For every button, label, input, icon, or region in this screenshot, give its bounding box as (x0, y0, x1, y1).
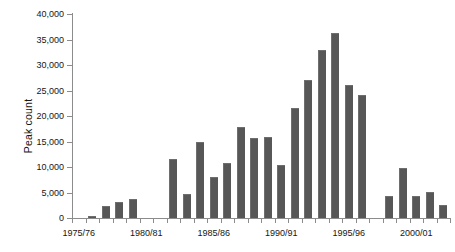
x-axis-tick (315, 219, 316, 223)
bar (169, 159, 177, 218)
bar (88, 216, 96, 218)
bar (331, 33, 339, 218)
bar (277, 165, 285, 218)
y-axis-label: 35,000 (36, 35, 64, 45)
y-axis-label: 15,000 (36, 137, 64, 147)
x-axis-tick (113, 219, 114, 223)
x-axis-tick (329, 219, 330, 223)
y-axis-label: 20,000 (36, 111, 64, 121)
bar (237, 127, 245, 218)
x-axis-tick (383, 219, 384, 223)
x-axis-tick (450, 219, 451, 223)
plot-area: 05,00010,00015,00020,00025,00030,00035,0… (72, 14, 450, 218)
x-axis-tick (221, 219, 222, 223)
x-axis-label: 1985/86 (197, 228, 230, 238)
y-axis-title: Peak count (18, 0, 38, 252)
y-axis-label: 40,000 (36, 9, 64, 19)
bar (412, 196, 420, 218)
y-axis-label: 5,000 (41, 188, 64, 198)
bar (385, 196, 393, 218)
x-axis-tick (72, 219, 73, 223)
bar (345, 85, 353, 218)
bar-chart: Peak count 05,00010,00015,00020,00025,00… (0, 0, 455, 252)
bar (291, 108, 299, 218)
x-axis-tick (437, 219, 438, 223)
x-axis-tick (342, 219, 343, 223)
x-axis-tick (396, 219, 397, 223)
y-axis-label: 25,000 (36, 86, 64, 96)
bar (358, 95, 366, 218)
x-axis-label: 1980/81 (130, 228, 163, 238)
x-axis-label: 1995/96 (332, 228, 365, 238)
bar (102, 206, 110, 218)
x-axis-tick (167, 219, 168, 223)
x-axis-tick (207, 219, 208, 223)
bar (223, 163, 231, 218)
bar (439, 205, 447, 218)
bar (318, 50, 326, 218)
x-axis-tick (356, 219, 357, 223)
x-axis-tick (248, 219, 249, 223)
x-axis-tick (275, 219, 276, 223)
y-axis-label: 30,000 (36, 60, 64, 70)
x-axis-tick (261, 219, 262, 223)
bar (196, 142, 204, 218)
x-axis-label: 2000/01 (400, 228, 433, 238)
y-axis-label: 0 (59, 213, 64, 223)
bars-layer (72, 14, 450, 218)
x-axis-tick (234, 219, 235, 223)
x-axis-tick (194, 219, 195, 223)
x-axis-tick (410, 219, 411, 223)
y-axis-label: 10,000 (36, 162, 64, 172)
bar (183, 194, 191, 218)
x-axis-tick (153, 219, 154, 223)
x-axis-label: 1975/76 (62, 228, 95, 238)
bar (115, 202, 123, 218)
x-axis-tick (302, 219, 303, 223)
x-axis-tick (423, 219, 424, 223)
bar (426, 192, 434, 218)
x-axis-tick (140, 219, 141, 223)
x-axis-tick (369, 219, 370, 223)
x-axis-tick (126, 219, 127, 223)
x-axis-tick (99, 219, 100, 223)
bar (210, 177, 218, 218)
x-axis-tick (180, 219, 181, 223)
x-axis-tick (86, 219, 87, 223)
bar (304, 80, 312, 218)
bar (264, 137, 272, 218)
x-axis-label: 1990/91 (265, 228, 298, 238)
bar (399, 168, 407, 218)
bar (250, 138, 258, 218)
x-axis-tick (288, 219, 289, 223)
bar (129, 199, 137, 218)
